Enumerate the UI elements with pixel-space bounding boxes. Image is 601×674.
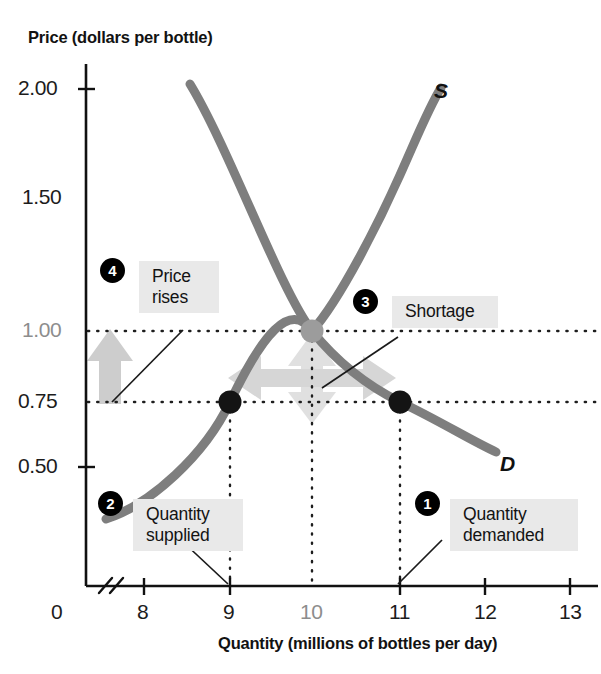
- callout-price-rises: Price rises: [139, 261, 219, 313]
- x-tick-label-9: 9: [223, 600, 234, 624]
- callout-quantity-demanded: Quantity demanded: [450, 499, 578, 551]
- callout-badge-3: 3: [353, 289, 378, 314]
- x-tick-label-0: 0: [51, 600, 62, 624]
- callout-badge-1: 1: [415, 491, 440, 516]
- leader-price-rises: [112, 330, 183, 402]
- callout-shortage-line1: Shortage: [405, 301, 474, 321]
- y-tick-label-050: 0.50: [18, 454, 57, 478]
- leader-quantity-demanded: [398, 540, 442, 584]
- callout-quantity-supplied-line2: supplied: [146, 525, 210, 545]
- chart-figure: Price (dollars per bottle) Quantity (mil…: [0, 0, 601, 674]
- x-tick-label-8: 8: [137, 600, 148, 624]
- quantity-demanded-point: [389, 391, 412, 414]
- supply-demand-chart: [0, 0, 601, 674]
- callout-badge-4: 4: [100, 258, 125, 283]
- demand-curve-label: D: [500, 452, 515, 476]
- x-tick-label-13: 13: [559, 600, 582, 624]
- callout-quantity-supplied: Quantity supplied: [133, 499, 243, 551]
- callout-quantity-demanded-line1: Quantity: [463, 504, 527, 524]
- callout-quantity-demanded-line2: demanded: [463, 525, 544, 545]
- equilibrium-point: [301, 320, 324, 343]
- callout-quantity-supplied-line1: Quantity: [146, 504, 210, 524]
- x-axis-title: Quantity (millions of bottles per day): [218, 634, 497, 653]
- price-rises-arrow: [87, 329, 133, 404]
- callout-badge-2: 2: [98, 491, 123, 516]
- x-tick-label-11: 11: [389, 600, 410, 624]
- y-tick-label-150: 1.50: [22, 185, 61, 209]
- y-tick-label-075: 0.75: [18, 389, 57, 413]
- callout-shortage: Shortage: [392, 296, 498, 328]
- y-tick-label-200: 2.00: [18, 76, 57, 100]
- y-axis-title: Price (dollars per bottle): [28, 28, 213, 47]
- callout-price-rises-line2: rises: [152, 287, 188, 307]
- price-rises-arrow-group: [87, 329, 133, 404]
- x-tick-label-10: 10: [300, 600, 323, 624]
- supply-curve-label: S: [434, 79, 448, 103]
- quantity-supplied-point: [219, 391, 242, 414]
- callout-price-rises-line1: Price: [152, 266, 191, 286]
- x-tick-label-12: 12: [474, 600, 497, 624]
- y-tick-label-100: 1.00: [22, 318, 61, 342]
